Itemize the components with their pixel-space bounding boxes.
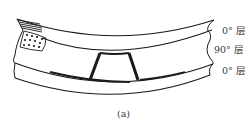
layer-label-bottom: 0° 层 xyxy=(222,66,246,76)
layer-label-top: 0° 层 xyxy=(222,26,246,36)
left-end-profile xyxy=(14,19,24,78)
dotted-region-outline xyxy=(20,31,46,51)
layer-label-middle: 90° 层 xyxy=(214,45,244,55)
bottom-surface-line xyxy=(15,75,210,94)
top-surface-line xyxy=(17,19,214,36)
crack-left xyxy=(90,53,100,80)
upper-interface-line xyxy=(42,30,212,50)
lower-interface-shade-right xyxy=(140,72,185,80)
crack-right xyxy=(129,53,138,80)
crack-bridge xyxy=(100,53,129,54)
figure-caption: (a) xyxy=(117,109,130,119)
right-end-profile xyxy=(207,20,214,75)
